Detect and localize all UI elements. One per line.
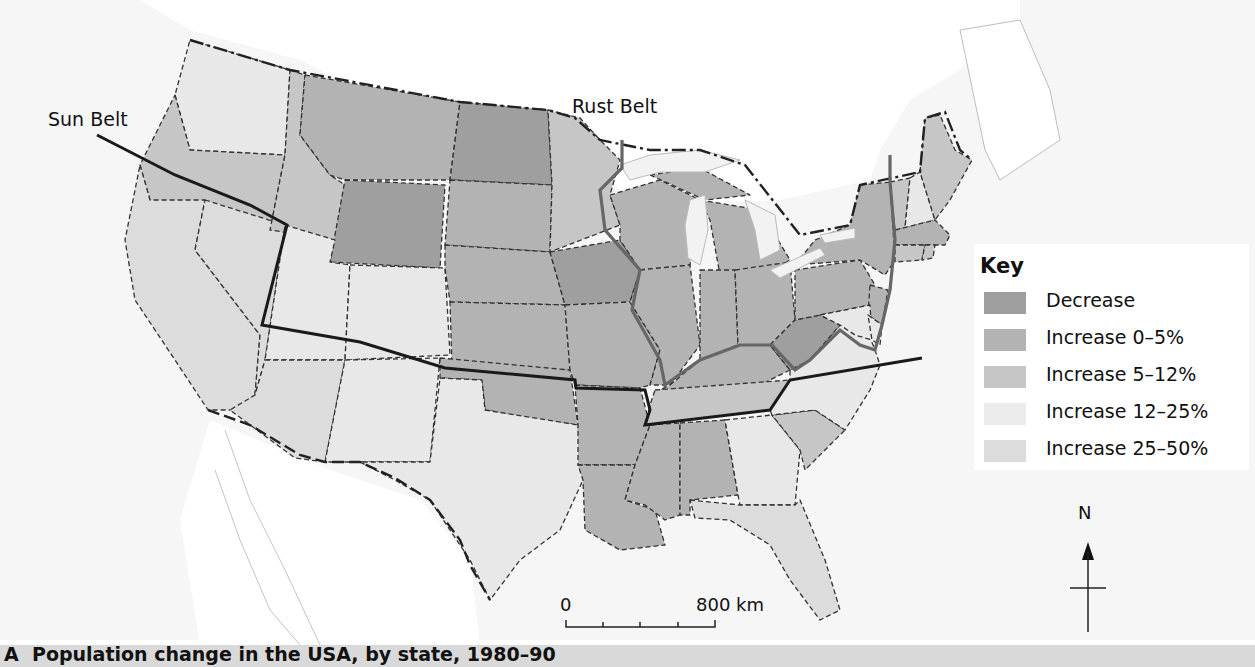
key-label: Increase 25–50% xyxy=(1046,437,1208,459)
key-swatch-increase-5-12 xyxy=(984,366,1026,388)
key-label: Increase 0–5% xyxy=(1046,326,1184,348)
caption-title: Population change in the USA, by state, … xyxy=(32,643,556,665)
key-swatch-increase-0-5 xyxy=(984,329,1026,351)
north-arrow: N xyxy=(1068,502,1108,637)
key-label: Increase 5–12% xyxy=(1046,363,1196,385)
state-nebraska xyxy=(445,245,565,305)
figure-caption: A Population change in the USA, by state… xyxy=(0,645,1255,667)
caption-letter: A xyxy=(4,643,19,665)
key-swatch-increase-12-25 xyxy=(984,403,1026,425)
north-arrow-icon xyxy=(1068,502,1108,637)
key-swatch-decrease xyxy=(984,292,1026,314)
key-label: Increase 12–25% xyxy=(1046,400,1208,422)
map-key: Key Decrease Increase 0–5% Increase 5–12… xyxy=(974,244,1249,470)
lake-michigan xyxy=(685,195,708,265)
state-north-dakota xyxy=(450,102,552,185)
state-connecticut xyxy=(895,245,925,262)
state-kansas xyxy=(450,302,570,370)
key-title: Key xyxy=(980,254,1024,278)
scale-bar: 0 800 km xyxy=(560,594,730,634)
rust-belt-label: Rust Belt xyxy=(572,95,657,117)
state-new-mexico xyxy=(325,358,440,462)
scale-ruler-icon xyxy=(560,594,730,634)
caption-text: A Population change in the USA, by state… xyxy=(4,643,556,665)
state-colorado xyxy=(345,265,450,360)
state-arkansas xyxy=(575,385,650,465)
sun-belt-label: Sun Belt xyxy=(48,108,128,130)
state-washington xyxy=(175,40,290,155)
state-south-dakota xyxy=(445,180,552,252)
state-wyoming xyxy=(330,180,445,268)
key-label: Decrease xyxy=(1046,289,1135,311)
key-swatch-increase-25-50 xyxy=(984,440,1026,462)
canada-maritimes xyxy=(960,20,1060,180)
